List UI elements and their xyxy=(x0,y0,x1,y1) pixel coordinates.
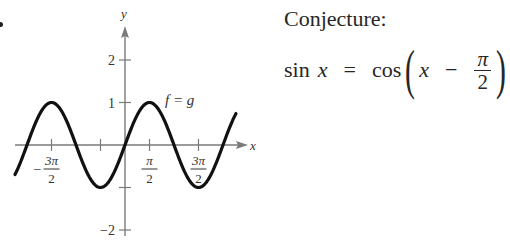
fraction-denominator: 2 xyxy=(477,71,488,93)
x-tick-label-numerator: 3π xyxy=(191,153,206,168)
y-tick-label: 1 xyxy=(108,96,115,111)
rhs-func: cos xyxy=(372,57,401,83)
conjecture-label: Conjecture: xyxy=(284,6,387,32)
x-tick-label-denominator: 2 xyxy=(146,171,153,186)
close-paren: ) xyxy=(496,44,506,96)
open-paren: ( xyxy=(405,44,415,96)
x-tick-label-numerator: 3π xyxy=(44,153,59,168)
rhs-var: x xyxy=(419,57,429,83)
x-tick-label-denominator: 2 xyxy=(195,171,202,186)
equals-sign: = xyxy=(343,57,355,83)
x-tick-label-denominator: 2 xyxy=(48,171,55,186)
x-axis-label: x xyxy=(249,138,256,153)
y-tick-label: −2 xyxy=(100,223,115,238)
y-tick-label: 2 xyxy=(108,53,115,68)
x-tick-label-sign: − xyxy=(34,162,42,177)
conjecture-equation: sin x = cos ( x − π 2 ) xyxy=(284,44,510,96)
lhs-func: sin xyxy=(284,57,310,83)
fraction-numerator: π xyxy=(474,48,491,71)
x-tick-label-numerator: π xyxy=(146,153,153,168)
pi-over-two-fraction: π 2 xyxy=(474,48,491,93)
sine-graph: xy21−23π2−π23π2f = g xyxy=(0,0,260,244)
lhs-var: x xyxy=(318,57,328,83)
curve-label: f = g xyxy=(165,92,195,108)
y-axis-label: y xyxy=(119,6,127,21)
minus-sign: − xyxy=(445,57,457,83)
